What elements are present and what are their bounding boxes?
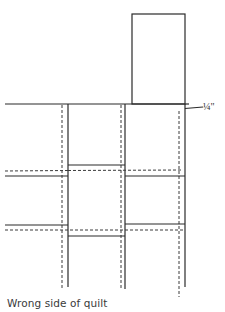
upper-row-stitch-left — [5, 171, 68, 172]
top-block — [132, 14, 185, 104]
measurement-label: ¼" — [203, 101, 215, 112]
upper-row-stitch-right — [68, 170, 183, 171]
quilt-seam-diagram — [0, 0, 225, 312]
measurement-leader — [185, 107, 203, 109]
diagram-caption: Wrong side of quilt — [7, 297, 108, 309]
